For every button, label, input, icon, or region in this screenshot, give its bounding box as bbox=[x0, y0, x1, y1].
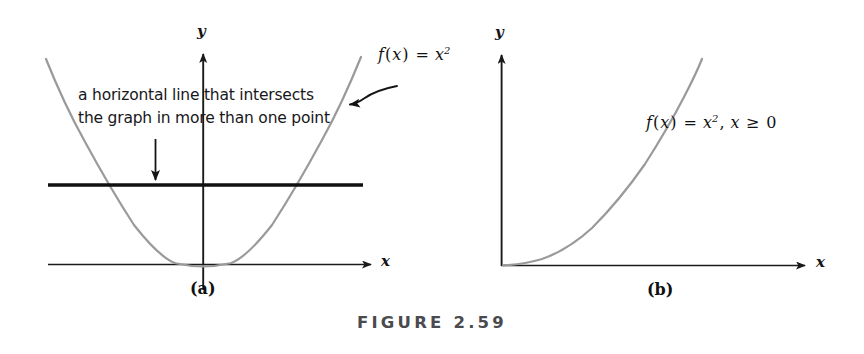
panel-b-y-axis-label: y bbox=[495, 23, 504, 41]
fx-label-equals-a: = bbox=[415, 45, 430, 64]
greater-equal-icon: ≥ bbox=[745, 113, 760, 132]
fx-label-close-paren-a: ) bbox=[401, 45, 409, 64]
panel-b-graphics bbox=[501, 55, 805, 266]
fx-label-open-paren-a: ( bbox=[384, 45, 392, 64]
fx-label-domain-var-b: x bbox=[731, 113, 740, 132]
figure-caption: FIGURE 2.59 bbox=[0, 313, 864, 332]
fx-label-var-b: x bbox=[660, 113, 669, 132]
fx-label-domain-val-b: 0 bbox=[765, 113, 777, 132]
panel-a-function-label: f(x) = x2 bbox=[378, 45, 450, 64]
annotation-line-1: a horizontal line that intersects bbox=[78, 84, 330, 107]
fx-label-comma-b: , bbox=[718, 113, 725, 132]
horizontal-line-annotation: a horizontal line that intersects the gr… bbox=[78, 84, 330, 130]
panel-a-caption: (a) bbox=[190, 279, 216, 298]
annotation-line-2: the graph in more than one point bbox=[78, 107, 330, 130]
fx-label-open-paren-b: ( bbox=[652, 113, 660, 132]
panel-b-x-axis-label: x bbox=[816, 253, 825, 271]
fx-label-var-a: x bbox=[392, 45, 401, 64]
panel-b-function-label: f(x) = x2, x ≥ 0 bbox=[646, 113, 777, 132]
fx-label-equals-b: = bbox=[683, 113, 698, 132]
fx-label-rhs-var-b: x bbox=[703, 113, 712, 132]
panel-b-caption: (b) bbox=[647, 280, 673, 299]
panel-b-parabola-curve bbox=[503, 59, 702, 265]
fx-label-rhs-var-a: x bbox=[435, 45, 444, 64]
curve-callout-arrow bbox=[350, 86, 397, 105]
figure-container: a horizontal line that intersects the gr… bbox=[0, 0, 864, 354]
panel-a-y-axis-label: y bbox=[197, 22, 206, 40]
fx-label-close-paren-b: ) bbox=[669, 113, 677, 132]
fx-label-exponent-a: 2 bbox=[444, 45, 450, 56]
panel-a-x-axis-label: x bbox=[381, 252, 390, 270]
